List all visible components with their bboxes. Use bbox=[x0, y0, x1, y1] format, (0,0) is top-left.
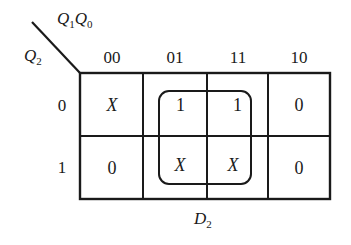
col-header: 11 bbox=[207, 49, 269, 66]
col-header: 10 bbox=[268, 49, 330, 66]
kmap-cell: X bbox=[218, 150, 248, 180]
kmap-cell: X bbox=[165, 150, 195, 180]
row-header: 1 bbox=[52, 159, 72, 176]
map-title: D2 bbox=[194, 210, 212, 227]
col-variables-label: Q1Q0 bbox=[57, 10, 93, 27]
row-variable-label: Q2 bbox=[24, 47, 42, 64]
kmap-cell: 0 bbox=[81, 137, 143, 199]
kmap-cell: 0 bbox=[268, 74, 330, 136]
kmap-cell: 0 bbox=[268, 137, 330, 199]
row-header: 0 bbox=[52, 97, 72, 114]
kmap-cell: 1 bbox=[143, 74, 195, 136]
col-header: 01 bbox=[144, 49, 206, 66]
col-header: 00 bbox=[81, 49, 143, 66]
kmap-cell: X bbox=[81, 74, 143, 136]
kmap-cell: 1 bbox=[207, 74, 268, 136]
